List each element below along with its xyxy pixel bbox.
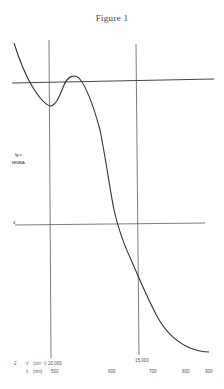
x-tick-wl-900: 900	[205, 369, 213, 374]
y-axis-label-lg-e: lg ε	[15, 152, 22, 157]
horizontal-ref-line-3	[15, 223, 205, 225]
lambda-symbol: λ	[26, 369, 28, 374]
lambda-unit: (nm)	[33, 369, 42, 374]
horizontal-ref-line-top	[12, 79, 214, 83]
wavenumber-unit: (cm⁻¹)	[33, 361, 47, 366]
y-tick-3: 3	[13, 220, 15, 225]
x-tick-wl-800: 800	[182, 369, 190, 374]
y-axis-label-signa: HIGNA	[12, 160, 25, 165]
absorption-curve	[14, 43, 209, 352]
x-tick-wl-700: 700	[149, 369, 157, 374]
x-tick-wn-20000: 20,000	[48, 361, 62, 366]
vertical-ref-line-20000	[49, 40, 51, 358]
x-tick-wl-600: 600	[108, 369, 116, 374]
x-tick-wn-15000: 15,000	[135, 358, 149, 363]
vertical-ref-line-15000	[136, 44, 139, 355]
y-tick-2: 2	[14, 361, 17, 366]
x-tick-wl-500: 500	[51, 369, 59, 374]
wavenumber-symbol: ν̄	[26, 361, 28, 366]
chart-plot	[0, 0, 224, 389]
